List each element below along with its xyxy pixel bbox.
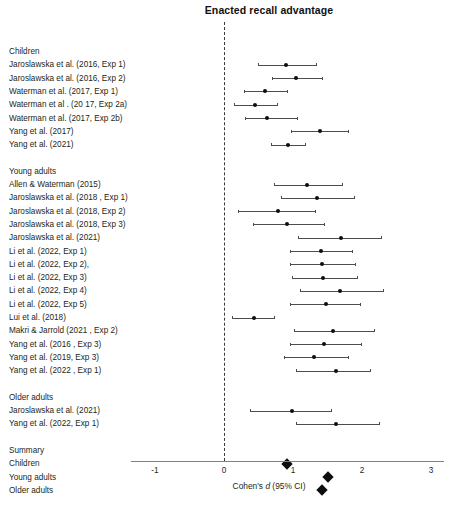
confidence-interval-line: [234, 105, 277, 106]
study-label: Lui et al. (2018): [9, 313, 66, 322]
ci-cap-lower: [281, 196, 282, 199]
ci-cap-upper: [316, 63, 317, 66]
study-label: Jaroslawska et al. (2021): [9, 406, 100, 415]
study-label: Yang et al. (2022 , Exp 1): [9, 366, 101, 375]
confidence-interval-line: [294, 331, 374, 332]
ci-cap-lower: [250, 409, 251, 412]
confidence-interval-line: [258, 65, 316, 66]
chart-title-text: Enacted recall advantage: [205, 4, 333, 16]
ci-cap-upper: [297, 117, 298, 120]
ci-cap-upper: [331, 409, 332, 412]
study-label: Yang et al. (2019, Exp 3): [9, 353, 99, 362]
study-label: Yang et al. (2021): [9, 140, 73, 149]
chart-title: Enacted recall advantage: [0, 4, 476, 16]
confidence-interval-line: [245, 118, 297, 119]
effect-size-point: [320, 262, 324, 266]
ci-cap-lower: [244, 90, 245, 93]
confidence-interval-line: [292, 278, 358, 279]
confidence-interval-line: [290, 344, 361, 345]
x-axis-title-text: Cohen's d (95% CI): [233, 481, 306, 491]
ci-cap-upper: [354, 196, 355, 199]
ci-cap-upper: [324, 223, 325, 226]
ci-cap-upper: [277, 103, 278, 106]
ci-cap-upper: [274, 316, 275, 319]
confidence-interval-line: [296, 371, 370, 372]
confidence-interval-line: [244, 91, 287, 92]
ci-cap-upper: [379, 422, 380, 425]
study-label: Li et al. (2022, Exp 4): [9, 286, 87, 295]
study-label: Waterman et al. (2017, Exp 1): [9, 87, 118, 96]
effect-size-point: [276, 209, 280, 213]
study-label: Makri & Jarrold (2021 , Exp 2): [9, 326, 118, 335]
effect-size-point: [263, 89, 267, 93]
confidence-interval-line: [272, 78, 322, 79]
study-label: Allen & Waterman (2015): [9, 180, 101, 189]
figure-caption: [6, 497, 472, 507]
ci-cap-lower: [232, 316, 233, 319]
study-label: Jaroslawska et al. (2018, Exp 3): [9, 220, 126, 229]
effect-size-point: [331, 329, 335, 333]
ci-cap-lower: [258, 63, 259, 66]
ci-cap-lower: [290, 263, 291, 266]
effect-size-point: [315, 196, 319, 200]
group-header-young-adults: Young adults: [9, 167, 56, 176]
ci-cap-lower: [300, 289, 301, 292]
study-label: Jaroslawska et al. (2018 , Exp 1): [9, 193, 128, 202]
effect-size-point: [290, 409, 294, 413]
confidence-interval-line: [291, 131, 348, 132]
confidence-interval-line: [296, 424, 379, 425]
ci-cap-lower: [294, 329, 295, 332]
ci-cap-upper: [360, 303, 361, 306]
ci-cap-lower: [290, 303, 291, 306]
effect-size-point: [319, 249, 323, 253]
confidence-interval-line: [290, 251, 352, 252]
ci-cap-upper: [361, 343, 362, 346]
ci-cap-upper: [315, 210, 316, 213]
study-label: Waterman et al . (20 17, Exp 2a): [9, 100, 127, 109]
ci-cap-upper: [381, 236, 382, 239]
ci-cap-lower: [296, 369, 297, 372]
x-tick-label: -1: [143, 466, 167, 475]
effect-size-point: [339, 236, 343, 240]
effect-size-point: [265, 116, 269, 120]
study-label: Yang et al. (2022, Exp 1): [9, 419, 99, 428]
zero-reference-line: [224, 22, 225, 461]
effect-size-point: [312, 355, 316, 359]
ci-cap-lower: [272, 77, 273, 80]
ci-cap-upper: [322, 77, 323, 80]
confidence-interval-line: [253, 224, 324, 225]
ci-cap-lower: [253, 223, 254, 226]
group-header-older-adults: Older adults: [9, 393, 53, 402]
ci-cap-upper: [287, 90, 288, 93]
study-label: Jaroslawska et al. (2018, Exp 2): [9, 207, 126, 216]
confidence-interval-line: [284, 357, 348, 358]
effect-size-point: [324, 302, 328, 306]
study-label: Li et al. (2022, Exp 3): [9, 273, 87, 282]
study-label: Li et al. (2022, Exp 2),: [9, 260, 89, 269]
x-tick-label: 0: [212, 466, 236, 475]
effect-size-point: [334, 369, 338, 373]
ci-cap-lower: [291, 130, 292, 133]
ci-cap-upper: [352, 250, 353, 253]
effect-size-point: [318, 129, 322, 133]
confidence-interval-line: [298, 238, 381, 239]
study-label: Yang et al. (2016 , Exp 3): [9, 340, 101, 349]
effect-size-point: [294, 76, 298, 80]
effect-size-point: [253, 103, 257, 107]
confidence-interval-line: [232, 318, 273, 319]
x-tick-label: 3: [419, 466, 443, 475]
effect-size-point: [305, 183, 309, 187]
ci-cap-lower: [284, 356, 285, 359]
ci-cap-lower: [290, 343, 291, 346]
effect-size-point: [322, 342, 326, 346]
ci-cap-lower: [290, 250, 291, 253]
ci-cap-lower: [296, 422, 297, 425]
ci-cap-lower: [245, 117, 246, 120]
effect-size-point: [252, 316, 256, 320]
confidence-interval-line: [281, 198, 353, 199]
effect-size-point: [321, 276, 325, 280]
confidence-interval-line: [290, 304, 360, 305]
ci-cap-lower: [292, 276, 293, 279]
x-axis-line: [131, 461, 444, 462]
ci-cap-upper: [355, 263, 356, 266]
